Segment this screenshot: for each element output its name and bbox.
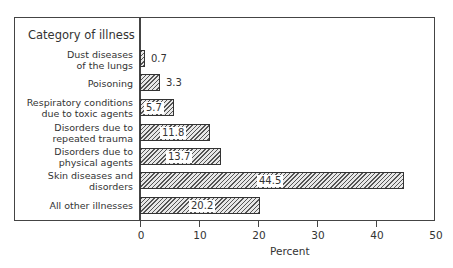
category-label-repeated-trauma: Disorders due to repeated trauma (53, 122, 133, 144)
value-label-repeated-trauma: 11.8 (160, 127, 186, 139)
category-label-dust-diseases: Dust diseases of the lungs (67, 49, 133, 71)
x-tick-label-40: 40 (362, 229, 392, 241)
category-header: Category of illness (28, 28, 135, 42)
x-tick-0 (140, 221, 141, 227)
x-tick-label-10: 10 (185, 229, 215, 241)
category-axis-line (139, 17, 141, 221)
x-tick-10 (199, 221, 200, 227)
category-label-skin-diseases: Skin diseases and disorders (48, 170, 133, 192)
value-label-respiratory: 5.7 (144, 102, 164, 114)
bar-poisoning (140, 74, 160, 91)
x-tick-label-20: 20 (244, 229, 274, 241)
x-tick-label-30: 30 (303, 229, 333, 241)
bar-dust-diseases (140, 50, 145, 67)
category-label-all-other: All other illnesses (49, 200, 133, 211)
x-tick-label-0: 0 (126, 229, 156, 241)
value-label-all-other: 20.2 (189, 200, 215, 212)
value-label-dust-diseases: 0.7 (151, 53, 167, 65)
x-tick-40 (376, 221, 377, 227)
x-tick-label-50: 50 (421, 229, 451, 241)
x-tick-30 (317, 221, 318, 227)
x-tick-20 (258, 221, 259, 227)
value-label-physical-agents: 13.7 (166, 151, 192, 163)
value-label-skin-diseases: 44.5 (257, 175, 283, 187)
category-label-physical-agents: Disorders due to physical agents (54, 146, 133, 168)
category-label-respiratory: Respiratory conditions due to toxic agen… (27, 97, 133, 119)
value-label-poisoning: 3.3 (166, 77, 182, 89)
x-axis-title: Percent (270, 245, 310, 257)
category-label-poisoning: Poisoning (88, 78, 133, 89)
